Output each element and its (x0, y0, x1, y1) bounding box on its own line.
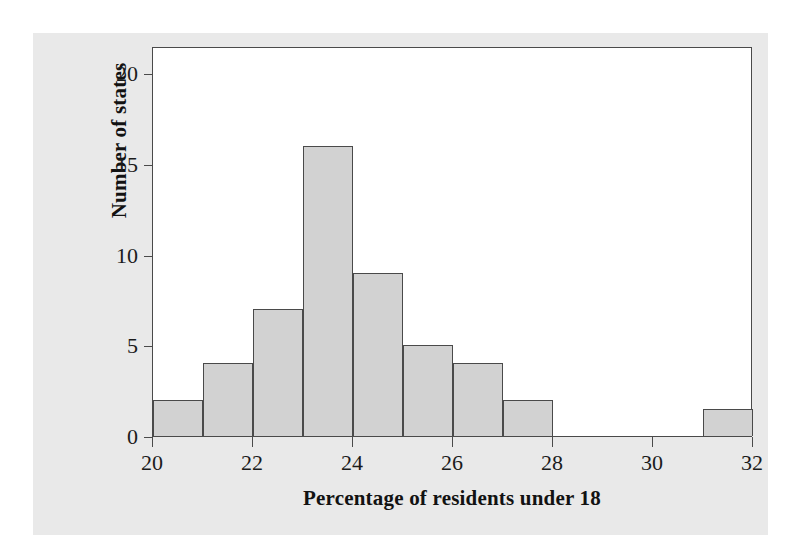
histogram-figure: Number of states 05101520 20222426283032… (0, 0, 806, 553)
bars-layer (153, 48, 751, 436)
x-axis-tick (652, 437, 653, 447)
histogram-bar (253, 309, 303, 436)
x-axis-tick-label: 26 (422, 452, 482, 474)
x-axis-tick (152, 437, 153, 447)
x-axis-tick-label: 24 (322, 452, 382, 474)
histogram-bar (453, 363, 503, 436)
x-axis-tick-label: 20 (122, 452, 182, 474)
histogram-bar (403, 345, 453, 436)
x-axis-tick (452, 437, 453, 447)
x-axis-tick (752, 437, 753, 447)
y-axis-title: Number of states (107, 26, 132, 256)
y-axis-tick-label: 15 (78, 154, 138, 176)
histogram-bar (503, 400, 553, 436)
y-axis-tick-label: 20 (78, 63, 138, 85)
x-axis-tick-label: 30 (622, 452, 682, 474)
x-axis-tick-label: 28 (522, 452, 582, 474)
y-axis-tick-label: 10 (78, 245, 138, 267)
x-axis-title: Percentage of residents under 18 (152, 486, 752, 511)
x-axis-tick (552, 437, 553, 447)
histogram-bar (703, 409, 753, 436)
x-axis-tick (352, 437, 353, 447)
histogram-bar (203, 363, 253, 436)
x-axis-tick (252, 437, 253, 447)
x-axis-tick-label: 32 (722, 452, 782, 474)
histogram-bar (353, 273, 403, 436)
histogram-bar (153, 400, 203, 436)
y-axis-tick-label: 5 (78, 335, 138, 357)
plot-area (152, 47, 752, 437)
histogram-bar (303, 146, 353, 436)
x-axis-tick-label: 22 (222, 452, 282, 474)
y-axis-tick-label: 0 (78, 426, 138, 448)
